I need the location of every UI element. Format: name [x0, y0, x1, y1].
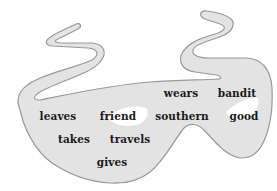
word-friend: friend — [100, 111, 136, 122]
word-takes: takes — [58, 134, 90, 145]
word-southern: southern — [155, 111, 209, 122]
word-bandit: bandit — [218, 88, 257, 99]
word-wears: wears — [164, 88, 198, 99]
word-travels: travels — [110, 134, 151, 145]
word-good: good — [229, 111, 258, 122]
word-gives: gives — [97, 157, 128, 168]
word-leaves: leaves — [40, 111, 77, 122]
bandit-mask-figure: wears bandit leaves friend southern good… — [0, 0, 277, 191]
